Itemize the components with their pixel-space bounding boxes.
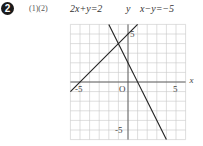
x-tick-5: 5 [173, 84, 178, 94]
coordinate-graph: xO-555-5 [0, 0, 203, 146]
x-tick-neg5: -5 [75, 84, 83, 94]
y-tick-5: 5 [130, 29, 135, 39]
y-tick-neg5: -5 [115, 125, 123, 135]
axes [70, 24, 185, 139]
x-axis-label: x [189, 75, 194, 85]
graph-line-2 [70, 24, 137, 91]
origin-label: O [119, 84, 126, 94]
